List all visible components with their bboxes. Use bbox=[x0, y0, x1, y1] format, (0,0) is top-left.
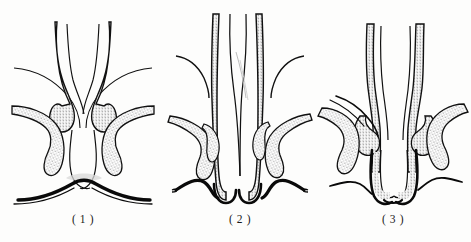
figure-plate: ( 1 ) ( 2 ) bbox=[0, 0, 471, 242]
panel-3-caption: ( 3 ) bbox=[382, 213, 404, 226]
panel-1-caption: ( 1 ) bbox=[72, 213, 94, 226]
anatomy-illustration-svg: ( 1 ) ( 2 ) bbox=[0, 0, 471, 242]
panel-2-caption: ( 2 ) bbox=[229, 213, 251, 226]
